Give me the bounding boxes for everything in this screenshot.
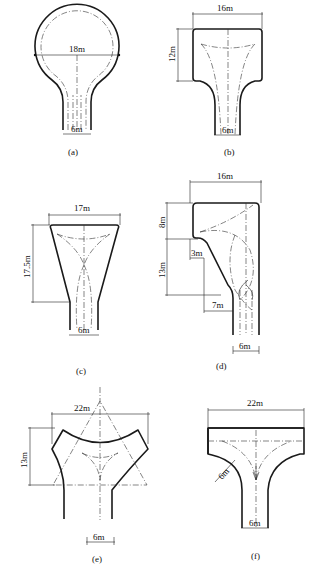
dim-width: 22m	[247, 398, 263, 408]
dim-upper-depth: 8m	[157, 216, 167, 228]
dim-road-width: 6m	[239, 341, 251, 351]
panel-f: 22m 6m 6m (f)	[208, 398, 304, 561]
dim-width: 16m	[217, 3, 233, 13]
dim-road-width: 6m	[249, 518, 261, 528]
dim-offset-7m: 7m	[212, 300, 224, 310]
panel-d-outline	[193, 203, 259, 335]
dim-corner-radius: 6m	[216, 466, 231, 481]
panel-c-outline	[50, 225, 118, 330]
caption-c: (c)	[76, 366, 86, 376]
dim-depth: 12m	[167, 46, 177, 62]
dim-road-width: 6m	[222, 125, 234, 135]
caption-d: (d)	[216, 361, 227, 371]
dim-width: 22m	[74, 403, 90, 413]
dim-depth: 17.5m	[22, 255, 32, 278]
dim-road-width: 6m	[71, 124, 83, 134]
caption-f: (f)	[251, 551, 260, 561]
turnaround-diagram: 18m 6m (a) 16m 12m 6m (b) 17m 17.5m 6m (	[0, 0, 313, 577]
dim-lower-depth: 13m	[157, 262, 167, 278]
caption-e: (e)	[92, 554, 102, 564]
dim-width: 17m	[74, 203, 90, 213]
dim-offset-3m: 3m	[191, 248, 203, 258]
panel-e: 22m 13m 6m (e)	[19, 387, 150, 564]
dim-width: 16m	[217, 171, 233, 181]
caption-b: (b)	[224, 147, 235, 157]
caption-a: (a)	[68, 147, 78, 157]
dim-diameter: 18m	[69, 44, 85, 54]
panel-b: 16m 12m 6m (b)	[167, 3, 263, 157]
panel-a: 18m 6m (a)	[34, 4, 120, 157]
dim-depth: 13m	[19, 452, 29, 468]
panel-c: 17m 17.5m 6m (c)	[22, 203, 121, 376]
dim-road-width: 6m	[78, 325, 90, 335]
panel-d: 16m 8m 13m 3m 7m 6m (d)	[157, 171, 262, 371]
dim-road-width: 6m	[93, 532, 105, 542]
